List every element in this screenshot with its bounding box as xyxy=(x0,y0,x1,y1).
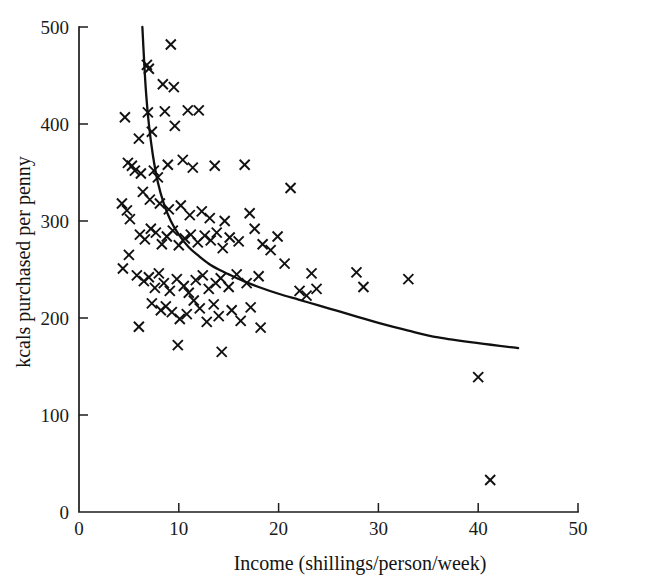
data-point-marker xyxy=(198,270,208,280)
data-point-marker xyxy=(185,210,195,220)
scatter-plot: 010203040500100200300400500 Income (shil… xyxy=(0,0,650,586)
x-tick-label: 50 xyxy=(569,518,588,539)
data-point-marker xyxy=(227,305,237,315)
data-point-marker xyxy=(154,268,164,278)
y-axis-label: kcals purchased per penny xyxy=(12,156,35,368)
data-point-marker xyxy=(183,105,193,115)
data-point-marker xyxy=(170,121,180,131)
y-tick-label: 200 xyxy=(41,308,70,329)
data-point-marker xyxy=(302,291,312,301)
data-point-marker xyxy=(150,283,160,293)
data-point-marker xyxy=(165,286,175,296)
data-point-marker xyxy=(124,250,134,260)
data-point-marker xyxy=(245,208,255,218)
data-point-marker xyxy=(254,271,264,281)
data-point-marker xyxy=(218,243,228,253)
data-point-marker xyxy=(250,224,260,234)
x-axis-label: Income (shillings/person/week) xyxy=(234,552,487,575)
data-point-marker xyxy=(240,160,250,170)
data-point-marker xyxy=(236,316,246,326)
data-point-marker xyxy=(125,214,135,224)
data-point-marker xyxy=(169,82,179,92)
data-point-marker xyxy=(176,200,186,210)
data-point-marker xyxy=(159,278,169,288)
data-point-marker xyxy=(173,340,183,350)
data-point-marker xyxy=(220,216,230,226)
data-point-marker xyxy=(120,112,130,122)
data-point-marker xyxy=(151,228,161,238)
data-point-marker xyxy=(217,347,227,357)
y-tick-label: 500 xyxy=(41,17,70,38)
data-point-marker xyxy=(225,232,235,242)
x-tick-label: 0 xyxy=(74,518,84,539)
data-point-marker xyxy=(144,272,154,282)
data-point-marker xyxy=(273,232,283,242)
data-point-marker xyxy=(351,267,361,277)
data-point-marker xyxy=(134,134,144,144)
data-point-marker xyxy=(195,303,205,313)
y-tick-label: 0 xyxy=(60,502,70,523)
data-point-marker xyxy=(117,199,127,209)
data-point-marker xyxy=(210,161,220,171)
chart-figure: 010203040500100200300400500 Income (shil… xyxy=(0,0,650,586)
data-point-marker xyxy=(246,302,256,312)
y-tick-label: 400 xyxy=(41,114,70,135)
data-point-marker xyxy=(202,317,212,327)
data-point-marker xyxy=(280,259,290,269)
data-point-marker xyxy=(234,236,244,246)
fitted-curve xyxy=(142,27,518,348)
data-point-marker xyxy=(209,299,219,309)
data-point-marker xyxy=(163,160,173,170)
data-point-marker xyxy=(191,275,201,285)
data-point-marker xyxy=(214,311,224,321)
data-point-marker xyxy=(122,205,132,215)
data-point-marker xyxy=(160,106,170,116)
data-point-marker xyxy=(158,79,168,89)
data-point-marker xyxy=(194,105,204,115)
data-point-marker xyxy=(312,284,322,294)
data-point-marker xyxy=(140,234,150,244)
data-point-marker xyxy=(258,239,268,249)
data-point-marker xyxy=(473,372,483,382)
data-point-marker xyxy=(147,298,157,308)
data-point-marker xyxy=(178,155,188,165)
data-points xyxy=(117,39,495,485)
data-point-marker xyxy=(286,183,296,193)
data-point-marker xyxy=(403,274,413,284)
x-tick-label: 20 xyxy=(269,518,288,539)
data-point-marker xyxy=(295,286,305,296)
data-point-marker xyxy=(145,195,155,205)
data-point-marker xyxy=(206,235,216,245)
x-tick-label: 30 xyxy=(369,518,388,539)
data-point-marker xyxy=(118,264,128,274)
fit-curve-path xyxy=(142,27,518,348)
data-point-marker xyxy=(256,323,266,333)
data-point-marker xyxy=(485,475,495,485)
y-tick-label: 300 xyxy=(41,211,70,232)
data-point-marker xyxy=(188,163,198,173)
data-point-marker xyxy=(182,309,192,319)
data-point-marker xyxy=(307,268,317,278)
data-point-marker xyxy=(205,213,215,223)
y-tick-label: 100 xyxy=(41,405,70,426)
data-point-marker xyxy=(358,282,368,292)
x-tick-label: 10 xyxy=(169,518,188,539)
data-point-marker xyxy=(166,39,176,49)
x-tick-label: 40 xyxy=(469,518,488,539)
data-point-marker xyxy=(179,281,189,291)
axis-tick-labels: 010203040500100200300400500 xyxy=(41,17,588,539)
data-point-marker xyxy=(175,314,185,324)
data-point-marker xyxy=(266,245,276,255)
data-point-marker xyxy=(212,228,222,238)
data-point-marker xyxy=(224,282,234,292)
data-point-marker xyxy=(134,322,144,332)
